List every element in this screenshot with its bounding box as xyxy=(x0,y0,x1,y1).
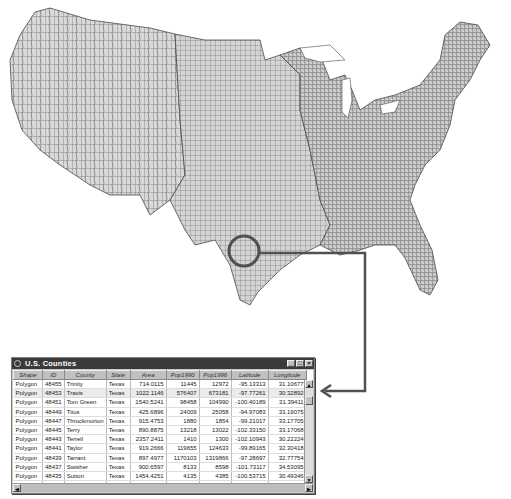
cell-area: 425.6896 xyxy=(130,407,166,416)
cell-area: 890.8875 xyxy=(130,425,166,434)
cell-state: Texas xyxy=(106,398,130,407)
cell-county: Tarrant xyxy=(64,453,106,462)
cell-shape: Polygon xyxy=(14,462,43,471)
table-row[interactable]: Polygon48439TarrantTexas897.497711701031… xyxy=(14,453,307,462)
cell-shape: Polygon xyxy=(14,416,43,425)
cell-pop1990: 98458 xyxy=(166,398,199,407)
cell-state: Texas xyxy=(106,380,130,389)
cell-latitude: -97.77261 xyxy=(231,389,268,398)
scroll-up-button[interactable]: ▲ xyxy=(305,380,313,388)
cell-pop1996: 1300 xyxy=(199,435,231,444)
cell-state: Texas xyxy=(106,425,130,434)
cell-area: 714.0115 xyxy=(130,380,166,389)
cell-area: 897.4977 xyxy=(130,453,166,462)
cell-area: 1540.5241 xyxy=(130,398,166,407)
cell-latitude: -102.33150 xyxy=(231,425,268,434)
table-row[interactable]: Polygon48437SwisherTexas900.659781338598… xyxy=(14,462,307,471)
cell-area: 915.4753 xyxy=(130,416,166,425)
cell-shape: Polygon xyxy=(14,407,43,416)
table-row[interactable]: Polygon48443TerrellTexas2357.24111410130… xyxy=(14,435,307,444)
column-header-latitude[interactable]: Latitude xyxy=(231,371,268,380)
cell-state: Texas xyxy=(106,453,130,462)
window-titlebar[interactable]: U.S. Counties _ □ × xyxy=(12,358,314,369)
cell-pop1996: 673181 xyxy=(199,389,231,398)
column-header-county[interactable]: County xyxy=(64,371,106,380)
vertical-scrollbar[interactable]: ▲ ▼ xyxy=(304,380,313,483)
cell-area: 2357.2411 xyxy=(130,435,166,444)
table-row[interactable]: Polygon48451Tom GreenTexas1540.524198458… xyxy=(14,398,307,407)
cell-state: Texas xyxy=(106,462,130,471)
cell-area: 1454.4251 xyxy=(130,471,166,480)
cell-county: Travis xyxy=(64,389,106,398)
scroll-left-button[interactable]: ◀ xyxy=(13,484,21,492)
cell-longitude: 32.30418 xyxy=(268,444,306,453)
column-header-longitude[interactable]: Longitude xyxy=(268,371,306,380)
cell-county: Throckmorton xyxy=(64,416,106,425)
cell-longitude: 30.49346 xyxy=(268,471,306,480)
table-row[interactable]: Polygon48435SuttonTexas1454.425141354385… xyxy=(14,471,307,480)
maximize-button[interactable]: □ xyxy=(296,360,304,367)
column-header-id[interactable]: ID xyxy=(43,371,65,380)
us-counties-table-window[interactable]: U.S. Counties _ □ × ShapeIDCountyStateAr… xyxy=(11,357,315,494)
table-row[interactable]: Polygon48453TravisTexas1022.114657640767… xyxy=(14,389,307,398)
cell-id: 48447 xyxy=(43,416,65,425)
column-header-pop1990[interactable]: Pop1990 xyxy=(166,371,199,380)
table-row[interactable]: Polygon48455TrinityTexas714.011511445129… xyxy=(14,380,307,389)
column-header-shape[interactable]: Shape xyxy=(14,371,43,380)
cell-longitude: 33.17705 xyxy=(268,416,306,425)
cell-longitude: 33.17068 xyxy=(268,425,306,434)
cell-pop1996: 4385 xyxy=(199,471,231,480)
scroll-right-button[interactable]: ▶ xyxy=(305,484,313,492)
cell-longitude: 30.32892 xyxy=(268,389,306,398)
cell-id: 48449 xyxy=(43,407,65,416)
cell-state: Texas xyxy=(106,407,130,416)
cell-pop1996: 8598 xyxy=(199,462,231,471)
cell-county: Taylor xyxy=(64,444,106,453)
cell-pop1990: 1880 xyxy=(166,416,199,425)
table-row[interactable]: Polygon48447ThrockmortonTexas915.4753188… xyxy=(14,416,307,425)
cell-latitude: -95.13313 xyxy=(231,380,268,389)
cell-county: Terry xyxy=(64,425,106,434)
cell-pop1990: 13218 xyxy=(166,425,199,434)
cell-shape: Polygon xyxy=(14,389,43,398)
cell-latitude: -97.28697 xyxy=(231,453,268,462)
attribute-table[interactable]: ShapeIDCountyStateAreaPop1990Pop1996Lati… xyxy=(13,370,313,483)
cell-pop1990: 119655 xyxy=(166,444,199,453)
horizontal-scrollbar[interactable]: ◀ ▶ xyxy=(13,483,313,492)
cell-latitude: -94.97083 xyxy=(231,407,268,416)
table-row[interactable]: Polygon48441TaylorTexas919.2666119655124… xyxy=(14,444,307,453)
cell-pop1996: 1319866 xyxy=(199,453,231,462)
minimize-button[interactable]: _ xyxy=(287,360,295,367)
column-header-state[interactable]: State xyxy=(106,371,130,380)
cell-shape: Polygon xyxy=(14,453,43,462)
cell-id: 48437 xyxy=(43,462,65,471)
cell-latitude: -99.89165 xyxy=(231,444,268,453)
cell-id: 48443 xyxy=(43,435,65,444)
cell-longitude: 33.19075 xyxy=(268,407,306,416)
us-counties-map[interactable] xyxy=(0,0,511,360)
scroll-down-button[interactable]: ▼ xyxy=(305,475,313,483)
window-title: U.S. Counties xyxy=(25,359,287,368)
cell-county: Sutton xyxy=(64,471,106,480)
cell-shape: Polygon xyxy=(14,398,43,407)
column-header-pop1996[interactable]: Pop1996 xyxy=(199,371,231,380)
cell-state: Texas xyxy=(106,435,130,444)
cell-county: Trinity xyxy=(64,380,106,389)
cell-pop1990: 11445 xyxy=(166,380,199,389)
cell-pop1990: 8133 xyxy=(166,462,199,471)
cell-pop1990: 1410 xyxy=(166,435,199,444)
cell-area: 900.6597 xyxy=(130,462,166,471)
close-button[interactable]: × xyxy=(305,360,313,367)
eastern-counties xyxy=(280,22,490,295)
cell-longitude: 31.39411 xyxy=(268,398,306,407)
cell-latitude: -99.21017 xyxy=(231,416,268,425)
column-header-area[interactable]: Area xyxy=(130,371,166,380)
cell-county: Titus xyxy=(64,407,106,416)
western-counties xyxy=(10,8,185,215)
cell-id: 48453 xyxy=(43,389,65,398)
cell-id: 48451 xyxy=(43,398,65,407)
cell-state: Texas xyxy=(106,444,130,453)
table-row[interactable]: Polygon48445TerryTexas890.88751321813022… xyxy=(14,425,307,434)
table-row[interactable]: Polygon48449TitusTexas425.68962400925058… xyxy=(14,407,307,416)
scroll-thumb[interactable] xyxy=(305,396,313,405)
